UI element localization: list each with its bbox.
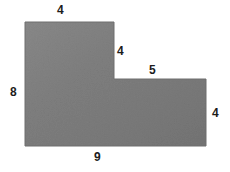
dimension-label-left-edge: 8 bbox=[10, 86, 17, 98]
dimension-label-top-edge: 4 bbox=[57, 4, 64, 16]
l-shape-polygon bbox=[0, 0, 230, 172]
dimension-label-bottom-edge: 9 bbox=[94, 151, 101, 163]
polygon-fill bbox=[25, 22, 206, 146]
dimension-label-notch-vertical-edge: 4 bbox=[117, 45, 124, 57]
figure-canvas: 4 4 5 8 4 9 bbox=[0, 0, 230, 172]
polygon-group bbox=[25, 22, 206, 146]
dimension-label-notch-horizontal-edge: 5 bbox=[149, 64, 156, 76]
dimension-label-right-edge: 4 bbox=[212, 107, 219, 119]
